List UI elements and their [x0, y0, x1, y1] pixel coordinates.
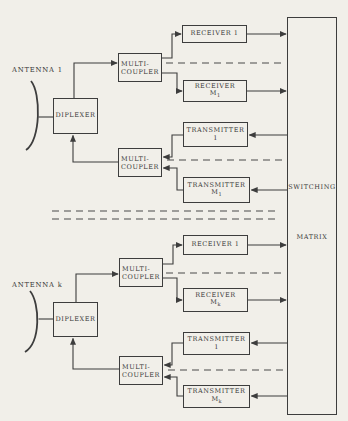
- rx-multicoupler1-to-receiver1-line: [162, 34, 181, 58]
- receiver-m1-box: RECEIVER M1: [183, 80, 247, 102]
- receiver-1-group1-box: RECEIVER 1: [182, 25, 247, 43]
- tx-multicoupler-k-label-line2: COUPLER: [122, 371, 160, 379]
- transmitter-1-groupk-label-num: 1: [188, 344, 246, 352]
- antenna-k-label: ANTENNA k: [12, 281, 63, 289]
- receiver-1-groupk-label: RECEIVER 1: [192, 241, 240, 249]
- rx-multicoupler-1-label-line1: MULTI-: [121, 60, 159, 68]
- transmitter1-to-tx-multicoupler1-line: [164, 135, 184, 157]
- rx-multicoupler-k-box: MULTI- COUPLER: [119, 258, 163, 287]
- rx-multicouplerk-to-receiver-mk-line: [163, 278, 182, 300]
- tx-multicoupler-1-label-line1: MULTI-: [121, 155, 159, 163]
- transmitter-1-group1-label-num: 1: [187, 135, 245, 143]
- rx-multicoupler-k-label-line2: COUPLER: [122, 273, 160, 281]
- receiver-mk-label-index: Mk: [195, 299, 236, 308]
- tx-multicoupler-k-box: MULTI- COUPLER: [119, 356, 163, 385]
- transmitter-mk-label-index: Mk: [188, 396, 246, 405]
- tx-multicoupler-1-label-line2: COUPLER: [121, 163, 159, 171]
- tx-multicoupler-k-label-line1: MULTI-: [122, 363, 160, 371]
- switching-matrix-box: SWITCHING MATRIX: [287, 17, 337, 415]
- rx-multicouplerk-to-receiver1k-line: [163, 245, 182, 264]
- tx-multicoupler1-to-diplexer1-line: [73, 136, 118, 163]
- transmitter-mk-to-tx-multicouplerk-line: [165, 377, 184, 396]
- tx-multicoupler-1-box: MULTI- COUPLER: [118, 148, 162, 177]
- switching-matrix-label-word1: SWITCHING: [288, 184, 336, 192]
- receiver-m1-label-index: M1: [195, 90, 236, 99]
- rx-multicoupler1-to-receiver-m1-line: [162, 73, 182, 91]
- tx-multicouplerk-to-diplexerk-line: [73, 339, 119, 370]
- antenna-1-label: ANTENNA 1: [12, 66, 63, 74]
- receiver-1-groupk-box: RECEIVER 1: [183, 235, 248, 255]
- receiver-1-group1-label: RECEIVER 1: [191, 30, 239, 38]
- transmitter-1-groupk-box: TRANSMITTER 1: [183, 332, 250, 355]
- diplexer-1-label: DIPLEXER: [56, 112, 96, 120]
- transmitter-1-group1-box: TRANSMITTER 1: [183, 122, 248, 147]
- transmitter-m1-to-tx-multicoupler1-line: [164, 168, 184, 190]
- diplexer1-to-rx-multicoupler1-line: [74, 63, 117, 98]
- diplexer-k-box: DIPLEXER: [53, 302, 98, 337]
- transmitter-mk-box: TRANSMITTER Mk: [183, 385, 250, 408]
- antenna-1-symbol: [26, 81, 38, 150]
- antenna-k-symbol: [25, 291, 37, 352]
- receiver-mk-box: RECEIVER Mk: [183, 288, 248, 312]
- diplexer-k-label: DIPLEXER: [56, 316, 96, 324]
- rx-multicoupler-1-box: MULTI- COUPLER: [118, 53, 162, 82]
- transmitter-m1-box: TRANSMITTER M1: [183, 177, 250, 203]
- rx-multicoupler-k-label-line1: MULTI-: [122, 265, 160, 273]
- transmitter-m1-label-index: M1: [188, 189, 246, 198]
- rx-multicoupler-1-label-line2: COUPLER: [121, 68, 159, 76]
- switching-matrix-label-word2: MATRIX: [288, 234, 336, 242]
- diplexer-1-box: DIPLEXER: [53, 98, 98, 134]
- block-diagram: ANTENNA 1 ANTENNA k DIPLEXER MULTI- COUP…: [0, 0, 348, 421]
- diplexerk-to-rx-multicouplerk-line: [76, 274, 118, 302]
- transmitter1k-to-tx-multicouplerk-line: [165, 343, 184, 365]
